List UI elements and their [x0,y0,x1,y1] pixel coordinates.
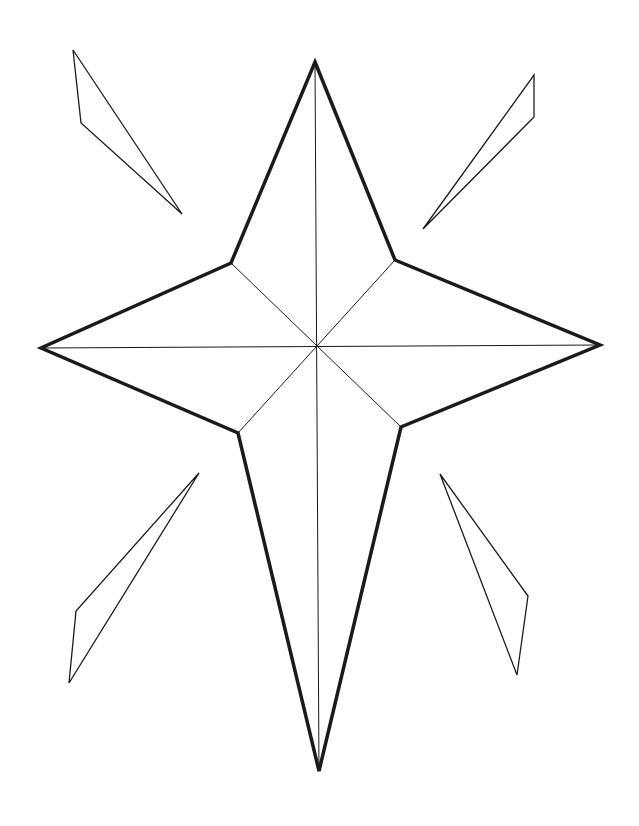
background [0,0,639,826]
star-drawing [0,0,639,826]
